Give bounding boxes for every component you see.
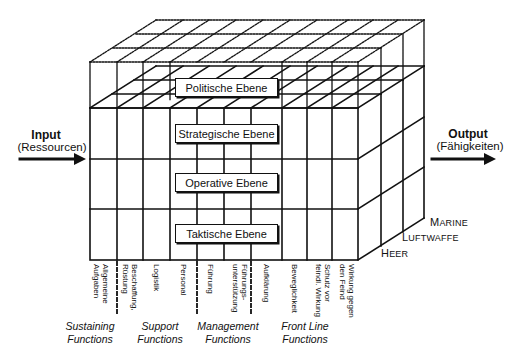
column-label-beschaffung-ruestung: Beschaffung, Rüstung: [121, 264, 139, 311]
group-line1: Support: [128, 320, 192, 333]
layer-label: Strategische Ebene: [178, 128, 274, 140]
column-label-schutz-vor-feindl-wirkung: Schutz vor feindl. Wirkung: [314, 264, 332, 317]
group-line2: Functions: [190, 333, 266, 346]
group-front-line-functions: Front Line Functions: [270, 320, 340, 346]
group-support-functions: Support Functions: [128, 320, 192, 346]
branch-initial: M: [430, 216, 439, 228]
input-arrow: [20, 153, 86, 165]
column-label-wirkung-gegen-den-feind: Wirkung gegen den Feind: [338, 264, 356, 318]
input-title: Input: [22, 128, 70, 142]
column-label-fuehrungsunterstuetzung: Führungs- unterstützung: [231, 264, 249, 312]
group-line1: Management: [190, 320, 266, 333]
group-management-functions: Management Functions: [190, 320, 266, 346]
layer-operative-ebene: Operative Ebene: [175, 173, 278, 192]
layer-strategische-ebene: Strategische Ebene: [175, 124, 278, 143]
branch-marine: MARINE: [430, 216, 468, 228]
input-subtitle: (Ressourcen): [14, 141, 90, 153]
branch-initial: H: [381, 247, 389, 259]
group-sustaining-functions: Sustaining Functions: [62, 320, 118, 346]
branch-rest: UFTWAFFE: [408, 233, 458, 243]
column-label-fuehrung: Führung: [206, 264, 215, 294]
branch-luftwaffe: LUFTWAFFE: [402, 231, 459, 243]
group-line1: Front Line: [270, 320, 340, 333]
layer-politische-ebene: Politische Ebene: [175, 78, 278, 97]
column-label-personal: Personal: [179, 264, 188, 296]
column-label-beweglichkeit: Beweglichkeit: [290, 264, 299, 313]
group-line2: Functions: [128, 333, 192, 346]
layer-label: Operative Ebene: [185, 177, 268, 189]
column-label-aufklaerung: Aufklärung: [262, 264, 271, 302]
layer-label: Politische Ebene: [186, 82, 268, 94]
group-line2: Functions: [62, 333, 118, 346]
group-line2: Functions: [270, 333, 340, 346]
layer-label: Taktische Ebene: [186, 228, 267, 240]
column-label-allgemeine-aufgaben: Allgemeine Aufgaben: [92, 264, 110, 304]
branch-heer: HEER: [381, 247, 408, 259]
branch-rest: EER: [389, 249, 408, 259]
output-title: Output: [438, 127, 498, 141]
branch-rest: ARINE: [439, 218, 468, 228]
output-subtitle: (Fähigkeiten): [430, 140, 510, 152]
group-line1: Sustaining: [62, 320, 118, 333]
column-label-logistik: Logistik: [152, 264, 161, 291]
output-arrow: [432, 153, 496, 165]
layer-taktische-ebene: Taktische Ebene: [175, 224, 278, 243]
